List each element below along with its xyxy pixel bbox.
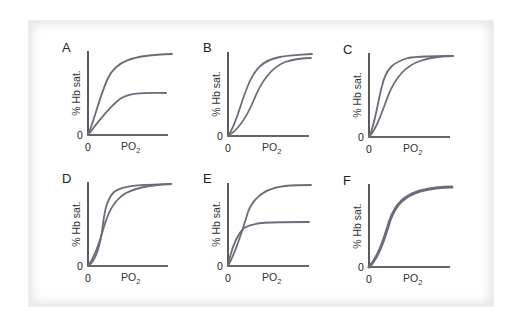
curve-1 <box>88 184 171 266</box>
panel-d: D % Hb sat. 0 0 PO2 <box>62 171 171 286</box>
panel-e: E % Hb sat. 0 0 PO2 <box>203 171 311 286</box>
x-axis-label: PO2 <box>121 140 140 155</box>
curve-2 <box>88 184 171 266</box>
panel-c: C % Hb sat. 0 0 PO2 <box>343 42 453 157</box>
x-axis-label: PO2 <box>262 141 281 156</box>
x-zero-tick: 0 <box>366 273 372 285</box>
panel-a: A % Hb sat. 0 0 PO2 <box>62 40 172 155</box>
curve-2 <box>228 58 311 136</box>
y-zero-tick: 0 <box>358 261 364 273</box>
x-zero-tick: 0 <box>85 141 91 153</box>
x-axis-label: PO2 <box>403 142 422 157</box>
curve-1 <box>369 56 453 137</box>
x-zero-tick: 0 <box>366 143 372 155</box>
y-axis-label: % Hb sat. <box>70 201 82 247</box>
panel-letter: D <box>62 171 71 186</box>
y-axis-label: % Hb sat. <box>70 70 82 116</box>
y-axis-label: % Hb sat. <box>351 72 363 118</box>
panel-letter: E <box>203 171 212 186</box>
curve-1 <box>228 185 311 266</box>
y-zero-tick: 0 <box>217 130 223 142</box>
x-zero-tick: 0 <box>225 142 231 154</box>
y-zero-tick: 0 <box>358 131 364 143</box>
curve-2 <box>369 56 453 137</box>
y-zero-tick: 0 <box>77 260 83 272</box>
y-zero-tick: 0 <box>77 129 83 141</box>
curve-2 <box>228 222 309 266</box>
y-zero-tick: 0 <box>217 260 223 272</box>
x-axis-label: PO2 <box>262 271 281 286</box>
panel-b: B % Hb sat. 0 0 PO2 <box>203 40 312 156</box>
x-axis-label: PO2 <box>403 272 422 287</box>
oxygen-dissociation-figure: A % Hb sat. 0 0 PO2 B % Hb sat. 0 0 PO2 … <box>0 0 516 324</box>
panel-letter: F <box>343 173 351 188</box>
y-axis-label: % Hb sat. <box>351 203 363 249</box>
y-axis-label: % Hb sat. <box>210 201 222 247</box>
x-axis-label: PO2 <box>121 271 140 286</box>
y-axis-label: % Hb sat. <box>210 71 222 117</box>
panel-letter: A <box>62 40 71 55</box>
curve-overlapping <box>369 187 452 267</box>
panel-f: F % Hb sat. 0 0 PO2 <box>343 173 452 287</box>
x-zero-tick: 0 <box>225 272 231 284</box>
panel-letter: B <box>203 40 212 55</box>
x-zero-tick: 0 <box>85 272 91 284</box>
panel-letter: C <box>343 42 352 57</box>
